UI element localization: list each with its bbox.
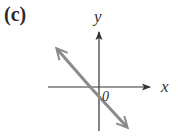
negative-slope-line (57, 49, 92, 89)
x-axis-label: x (161, 78, 169, 95)
origin-label: 0 (102, 90, 109, 104)
negative-slope-line-lower (92, 89, 127, 127)
coordinate-plot (0, 0, 180, 140)
y-axis-label: y (94, 8, 102, 25)
